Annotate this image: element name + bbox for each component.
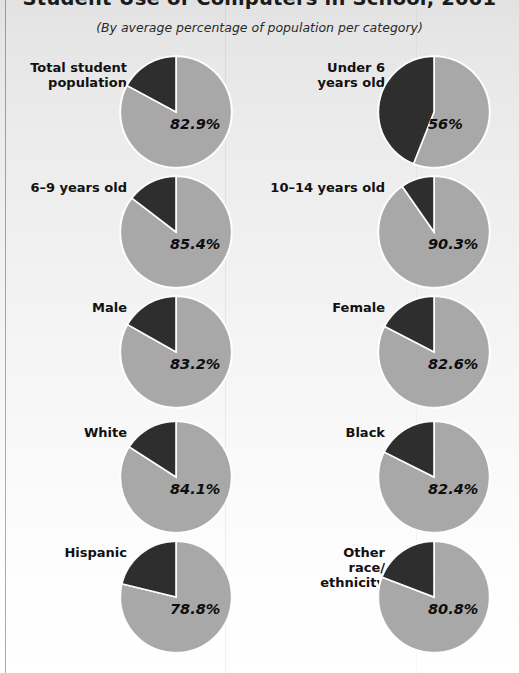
pie-cell-female: Female 82.6%: [260, 292, 519, 417]
pie-cell-white: White 84.1%: [0, 417, 259, 537]
pie-cell-hispanic: Hispanic 78.8%: [0, 537, 259, 657]
pie-label: Total student population: [0, 60, 127, 90]
chart-row-5: Hispanic 78.8% Other race/ ethnicity 80.…: [0, 537, 519, 657]
pie-value-label: 82.4%: [428, 481, 478, 497]
scanned-page: Student Use of Computers in School, 2001…: [0, 0, 519, 673]
pie-cell-black: Black 82.4%: [260, 417, 519, 537]
pie-graphic: [376, 539, 492, 655]
pie-chart: 82.6%: [376, 294, 492, 410]
pie-label: Female: [265, 300, 385, 315]
pie-label: Male: [0, 300, 127, 315]
pie-label: Other race/ ethnicity: [265, 545, 385, 590]
chart-row-2: 6–9 years old 85.4% 10–14 years old 90.3…: [0, 172, 519, 292]
pie-chart: 80.8%: [376, 539, 492, 655]
pie-value-label: 80.8%: [428, 601, 478, 617]
chart-row-3: Male 83.2% Female 82.6%: [0, 292, 519, 417]
pie-graphic: [376, 54, 492, 170]
pie-graphic: [376, 174, 492, 290]
pie-value-label: 78.8%: [170, 601, 220, 617]
pie-graphic: [118, 419, 234, 535]
page-title: Student Use of Computers in School, 2001: [0, 0, 519, 10]
pie-chart: 56%: [376, 54, 492, 170]
pie-label: White: [0, 425, 127, 440]
pie-chart: 82.9%: [118, 54, 234, 170]
pie-value-label: 90.3%: [428, 236, 478, 252]
pie-label: 6–9 years old: [0, 180, 127, 195]
page-subtitle: (By average percentage of population per…: [0, 20, 519, 35]
pie-graphic: [376, 294, 492, 410]
pie-cell-under-6-years-old: Under 6 years old 56%: [260, 52, 519, 172]
pie-label: Black: [265, 425, 385, 440]
pie-value-label: 85.4%: [170, 236, 220, 252]
pie-graphic: [118, 294, 234, 410]
pie-cell-male: Male 83.2%: [0, 292, 259, 417]
pie-value-label: 82.9%: [170, 116, 220, 132]
pie-chart: 90.3%: [376, 174, 492, 290]
pie-graphic: [118, 539, 234, 655]
pie-chart: 84.1%: [118, 419, 234, 535]
pie-value-label: 82.6%: [428, 356, 478, 372]
pie-chart: 83.2%: [118, 294, 234, 410]
pie-graphic: [118, 54, 234, 170]
pie-label: 10–14 years old: [265, 180, 385, 195]
pie-chart-grid: Total student population 82.9% Under 6 y…: [0, 52, 519, 657]
pie-cell-total-student-population: Total student population 82.9%: [0, 52, 259, 172]
pie-graphic: [376, 419, 492, 535]
pie-label: Under 6 years old: [265, 60, 385, 90]
pie-graphic: [118, 174, 234, 290]
pie-label: Hispanic: [0, 545, 127, 560]
pie-chart: 82.4%: [376, 419, 492, 535]
pie-value-label: 83.2%: [170, 356, 220, 372]
pie-chart: 85.4%: [118, 174, 234, 290]
pie-cell-other-race-ethnicity: Other race/ ethnicity 80.8%: [260, 537, 519, 657]
pie-chart: 78.8%: [118, 539, 234, 655]
pie-value-label: 84.1%: [170, 481, 220, 497]
chart-row-1: Total student population 82.9% Under 6 y…: [0, 52, 519, 172]
pie-cell-6-9-years-old: 6–9 years old 85.4%: [0, 172, 259, 292]
pie-cell-10-14-years-old: 10–14 years old 90.3%: [260, 172, 519, 292]
pie-value-label: 56%: [428, 116, 463, 132]
chart-row-4: White 84.1% Black 82.4%: [0, 417, 519, 537]
